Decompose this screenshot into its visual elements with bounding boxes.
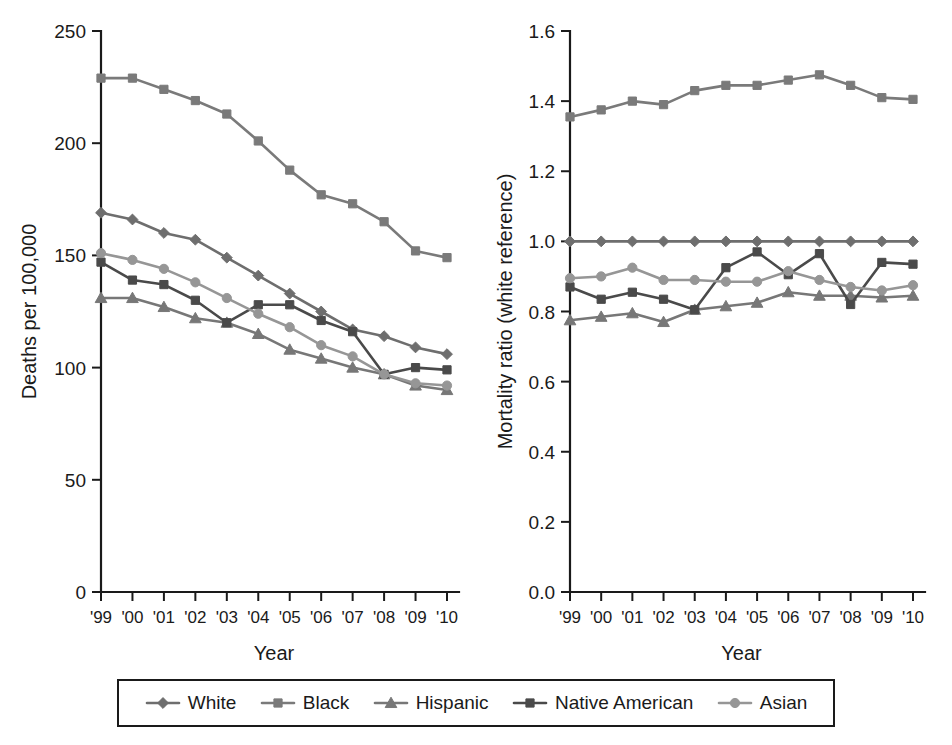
data-point (659, 275, 668, 284)
data-point (128, 255, 137, 264)
data-point (627, 236, 638, 247)
data-point (190, 234, 201, 245)
data-point (316, 306, 327, 317)
legend-entry-black[interactable]: Black (260, 692, 349, 714)
legend-marker-triangle-icon (373, 693, 409, 713)
data-point (815, 275, 824, 284)
data-point (878, 94, 886, 102)
x-tick-label: '01 (153, 608, 175, 627)
data-point (379, 331, 390, 342)
data-point (814, 236, 825, 247)
data-point (689, 236, 700, 247)
data-point (565, 236, 576, 247)
data-point (784, 267, 793, 276)
y-tick-label: 50 (65, 470, 86, 491)
data-point (191, 296, 199, 304)
data-point (722, 264, 730, 272)
data-point (721, 277, 730, 286)
data-point (753, 248, 761, 256)
data-point (97, 74, 105, 82)
data-point (442, 349, 453, 360)
legend-marker-square-icon (260, 693, 296, 713)
data-point (253, 270, 264, 281)
data-point (379, 370, 388, 379)
data-point (752, 236, 763, 247)
data-point (159, 264, 168, 273)
data-point (127, 214, 138, 225)
x-tick-label: '06 (310, 608, 332, 627)
legend-marker-square-icon (512, 693, 548, 713)
x-tick-label: '99 (559, 608, 581, 627)
y-tick-label: 0.8 (529, 302, 555, 323)
y-tick-label: 250 (54, 21, 86, 42)
data-point (876, 236, 887, 247)
data-point (783, 236, 794, 247)
data-point (443, 366, 451, 374)
data-point (690, 275, 699, 284)
ratio-chart-svg: 0.00.20.40.60.81.01.21.41.6'99'00'01'02'… (480, 0, 952, 660)
x-tick-label: '04 (247, 608, 269, 627)
data-point (254, 137, 262, 145)
data-point (160, 280, 168, 288)
legend-entry-native-american[interactable]: Native American (512, 692, 693, 714)
y-tick-label: 0.0 (529, 582, 555, 603)
data-point (845, 236, 856, 247)
figure-container: 050100150200250'99'00'01'02'03'04'05'06'… (0, 0, 952, 745)
x-tick-label: '02 (652, 608, 674, 627)
data-point (349, 328, 357, 336)
x-tick-label: '05 (746, 608, 768, 627)
data-point (597, 272, 606, 281)
x-tick-label: '00 (121, 608, 143, 627)
legend-entry-asian[interactable]: Asian (717, 692, 808, 714)
legend-label: Hispanic (416, 692, 489, 714)
series-native-american (97, 258, 451, 378)
x-axis-title: Year (254, 642, 295, 660)
x-tick-label: '01 (621, 608, 643, 627)
data-point (628, 263, 637, 272)
data-point (191, 278, 200, 287)
x-tick-label: '10 (436, 608, 458, 627)
data-point (752, 277, 761, 286)
y-tick-label: 1.2 (529, 161, 555, 182)
data-point (909, 260, 917, 268)
data-point (160, 85, 168, 93)
data-point (909, 95, 917, 103)
data-point (97, 258, 105, 266)
series-hispanic (564, 286, 919, 326)
data-point (221, 252, 232, 263)
legend-entry-white[interactable]: White (145, 692, 237, 714)
y-tick-label: 0 (75, 582, 86, 603)
y-tick-label: 0.6 (529, 372, 555, 393)
data-point (285, 323, 294, 332)
x-tick-label: '99 (90, 608, 112, 627)
series-asian (96, 249, 451, 391)
data-point (847, 81, 855, 89)
data-point (286, 166, 294, 174)
x-tick-label: '07 (808, 608, 830, 627)
data-point (128, 74, 136, 82)
series-asian (565, 263, 917, 295)
chart-panel-deaths: 050100150200250'99'00'01'02'03'04'05'06'… (0, 0, 480, 660)
legend-entry-hispanic[interactable]: Hispanic (373, 692, 489, 714)
data-point (628, 97, 636, 105)
data-point (877, 286, 886, 295)
data-point (566, 113, 574, 121)
data-point (128, 276, 136, 284)
data-point (254, 301, 262, 309)
data-point (720, 236, 731, 247)
data-point (442, 381, 451, 390)
x-tick-label: '10 (902, 608, 924, 627)
y-axis-title: Deaths per 100,000 (18, 224, 40, 400)
data-point (565, 274, 574, 283)
data-point (96, 249, 105, 258)
x-tick-label: '09 (404, 608, 426, 627)
series-white (565, 236, 919, 247)
data-point (846, 282, 855, 291)
data-point (222, 293, 231, 302)
x-tick-label: '00 (590, 608, 612, 627)
legend-label: Black (303, 692, 349, 714)
deaths-chart-svg: 050100150200250'99'00'01'02'03'04'05'06'… (0, 0, 480, 660)
x-tick-label: '04 (715, 608, 737, 627)
y-tick-label: 200 (54, 133, 86, 154)
data-point (380, 218, 388, 226)
